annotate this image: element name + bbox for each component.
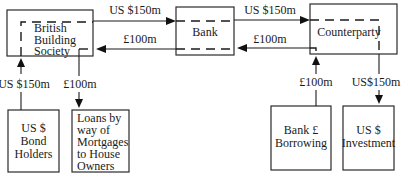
bondholders-to-bs-label: US $150m — [0, 77, 50, 91]
arrowhead-down-icon — [75, 99, 83, 108]
edge-bs-to-bank: US $150m — [93, 3, 176, 25]
arrowhead-right-icon — [300, 16, 310, 24]
node-bank: Bank — [176, 7, 234, 55]
node-bond-holders: US $ Bond Holders — [8, 110, 59, 172]
counterparty-label: Counterparty — [317, 25, 380, 39]
bank-borrowing-line-2: Borrowing — [275, 136, 327, 150]
arrowhead-down-icon — [375, 95, 383, 104]
edge-cp-to-investment: US$150m — [352, 54, 401, 104]
node-mortgages: Loans by way of Mortgages to House Owner… — [72, 110, 129, 173]
arrowhead-up-icon — [17, 58, 25, 67]
us-investment-line-2: Investment — [342, 136, 396, 150]
arrowhead-left-icon — [96, 45, 106, 53]
edge-bank-to-cp: US $150m — [234, 3, 310, 24]
mortgages-line-5: Owners — [77, 159, 115, 173]
node-counterparty: Counterparty — [310, 4, 397, 54]
node-building-society: British Building Society — [7, 10, 93, 58]
bond-holders-line-3: Holders — [15, 147, 53, 161]
cp-to-investment-label: US$150m — [352, 75, 401, 89]
node-us-investment: US $ Investment — [342, 106, 396, 170]
arrowhead-left-icon — [237, 44, 247, 52]
edge-cp-to-bank: £100m — [237, 32, 310, 52]
bs-to-bank-label: US $150m — [109, 3, 161, 17]
bank-to-cp-label: US $150m — [244, 3, 296, 17]
building-society-line-3: Society — [34, 44, 70, 58]
cp-to-bank-label: £100m — [253, 32, 287, 46]
bank-to-bs-label: £100m — [123, 32, 157, 46]
bank-borrowing-line-1: Bank £ — [284, 123, 318, 137]
swap-diagram: British Building Society Bank Counterpar… — [0, 0, 401, 174]
bond-holders-line-1: US $ — [21, 121, 45, 135]
node-bank-borrowing: Bank £ Borrowing — [271, 106, 331, 170]
bond-holders-line-2: Bond — [20, 134, 46, 148]
us-investment-line-1: US $ — [356, 123, 380, 137]
arrowhead-right-icon — [166, 17, 176, 25]
bank-label: Bank — [192, 25, 217, 39]
borrowing-to-cp-label: £100m — [299, 75, 333, 89]
edge-bank-to-bs: £100m — [96, 32, 176, 53]
bs-to-mortgages-label: £100m — [63, 77, 97, 91]
edge-bondholders-to-bs: US $150m — [0, 58, 50, 110]
edge-borrowing-to-cp: £100m — [299, 56, 333, 106]
arrowhead-up-icon — [312, 56, 320, 65]
